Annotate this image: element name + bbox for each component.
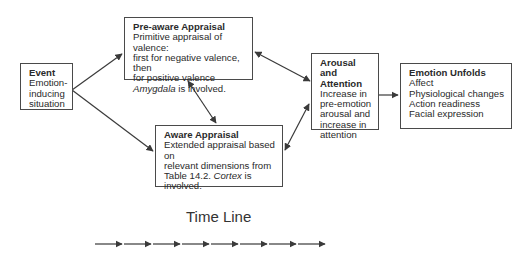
arrow-preaware-arousal [255, 52, 310, 81]
pre-aware-line: Amygdala is involved. [133, 84, 248, 94]
cortex-term: Cortex [214, 170, 242, 181]
arrow-event-to-aware [72, 90, 153, 151]
emotion-line: Facial expression [409, 109, 507, 119]
aware-line: involved. [164, 181, 278, 191]
aware-appraisal-box: Aware Appraisal Extended appraisal based… [155, 125, 283, 187]
emotion-unfolds-box: Emotion Unfolds Affect Physiological cha… [400, 63, 512, 129]
event-line: situation [29, 99, 68, 109]
pre-aware-tail: is involved. [176, 83, 226, 94]
amygdala-term: Amygdala [133, 83, 176, 94]
arrow-aware-arousal [285, 104, 309, 150]
aware-line3-suffix: is [242, 170, 252, 181]
arousal-attention-box: Arousal and Attention Increase in pre-em… [311, 53, 379, 130]
aware-line: Extended appraisal based on [164, 140, 278, 161]
arousal-line: attention [320, 130, 374, 140]
event-box: Event Emotion- inducing situation [20, 63, 73, 110]
pre-aware-appraisal-box: Pre-aware Appraisal Primitive appraisal … [124, 17, 253, 80]
arrow-event-to-preaware [72, 54, 122, 90]
arousal-title: Arousal and [320, 58, 374, 79]
timeline-label: Time Line [186, 208, 251, 225]
pre-aware-line: first for negative valence, then [133, 53, 248, 74]
pre-aware-line: Primitive appraisal of valence: [133, 32, 248, 53]
